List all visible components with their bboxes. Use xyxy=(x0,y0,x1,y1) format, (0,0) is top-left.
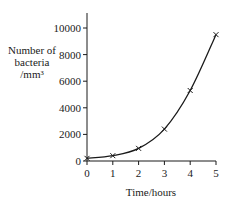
y-axis-title-line: Number of xyxy=(8,44,56,56)
bacteria-growth-chart: 0200040006000800010000012345Time/hoursNu… xyxy=(0,0,233,204)
y-tick-label: 6000 xyxy=(59,75,82,87)
y-tick-label: 8000 xyxy=(59,49,82,61)
y-axis-title-line: /mm³ xyxy=(20,68,44,80)
x-marker xyxy=(136,146,141,151)
data-markers xyxy=(85,32,219,161)
x-tick-label: 5 xyxy=(213,167,219,179)
fitted-curve xyxy=(87,35,216,159)
x-marker xyxy=(188,88,193,93)
axis-labels: 0200040006000800010000012345Time/hoursNu… xyxy=(8,22,219,198)
y-tick-label: 0 xyxy=(76,155,82,167)
x-marker xyxy=(214,32,219,37)
x-tick-label: 1 xyxy=(110,167,116,179)
y-axis-title-line: bacteria xyxy=(15,56,50,68)
y-tick-label: 2000 xyxy=(59,128,82,140)
x-marker xyxy=(162,127,167,132)
y-tick-label: 10000 xyxy=(54,22,82,34)
growth-curve xyxy=(87,35,216,159)
y-tick-label: 4000 xyxy=(59,102,82,114)
x-tick-label: 3 xyxy=(162,167,168,179)
x-tick-label: 0 xyxy=(84,167,90,179)
x-tick-label: 4 xyxy=(187,167,193,179)
x-tick-label: 2 xyxy=(136,167,142,179)
x-axis-title: Time/hours xyxy=(126,186,176,198)
